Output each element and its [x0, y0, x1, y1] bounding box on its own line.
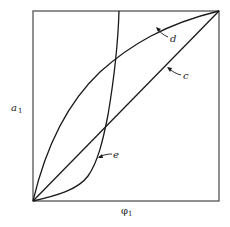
arrowhead-c-icon [167, 67, 172, 72]
curve-label-c: c [183, 70, 189, 81]
svg-text:φ1: φ1 [121, 205, 132, 218]
x-axis-label-main: φ [121, 205, 128, 216]
svg-text:a1: a1 [11, 102, 22, 115]
label-c-callout: c [167, 67, 189, 81]
y-axis-label: a1 [11, 102, 22, 115]
curve-label-e: e [113, 149, 119, 160]
curve-label-d: d [170, 33, 176, 44]
y-axis-label-subscript: 1 [18, 107, 22, 115]
x-axis-label: φ1 [121, 205, 132, 218]
label-e-callout: e [98, 149, 119, 160]
label-d-callout: d [156, 27, 176, 44]
curve-e [33, 11, 119, 201]
x-axis-label-subscript: 1 [128, 210, 132, 218]
diagram: d c e a1 φ1 [0, 0, 230, 227]
curve-c [33, 11, 219, 201]
y-axis-label-main: a [11, 102, 17, 113]
